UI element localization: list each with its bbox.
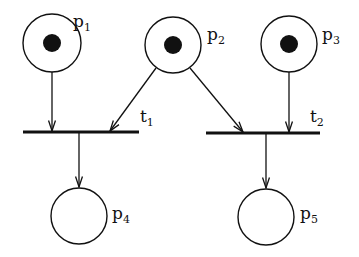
token-icon: [280, 35, 298, 53]
places-group: [23, 14, 317, 245]
arc-t2-p5: [263, 134, 270, 188]
arc-p1-t1: [49, 72, 56, 131]
transitions-group: [23, 132, 320, 133]
arc-t1-p4: [76, 133, 83, 187]
place-p2: [145, 17, 201, 73]
petri-net-diagram: p1p2p3p4p5t1t2: [0, 0, 359, 257]
token-icon: [43, 34, 61, 52]
place-label-p4: p4: [112, 203, 130, 226]
arcs-group: [49, 68, 293, 188]
place-label-p2: p2: [207, 24, 225, 47]
place-p4: [51, 188, 107, 244]
arc-p3-t2: [286, 72, 293, 132]
place-label-p1: p1: [73, 11, 91, 34]
place-label-p5: p5: [300, 203, 318, 226]
place-p5: [238, 189, 294, 245]
token-icon: [164, 36, 182, 54]
transition-label-t1: t1: [140, 106, 154, 129]
arc-p2-t2: [190, 68, 243, 132]
place-label-p3: p3: [322, 24, 340, 47]
place-p3: [261, 16, 317, 72]
transition-label-t2: t2: [310, 106, 324, 129]
